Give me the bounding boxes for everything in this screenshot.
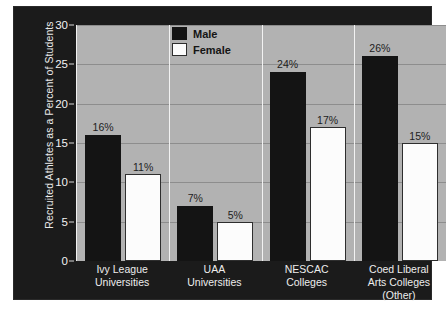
- bar-value-label: 24%: [277, 58, 298, 70]
- y-tick-mark: [69, 143, 74, 144]
- bar-male-1: 16%: [85, 135, 121, 261]
- legend-item-male: Male: [172, 27, 231, 40]
- x-category-line: Arts Colleges: [353, 276, 445, 289]
- x-category-label-4: Coed LiberalArts Colleges(Other): [353, 263, 445, 302]
- bar-value-label: 15%: [409, 130, 430, 142]
- bar-male-2: 7%: [177, 206, 213, 261]
- legend-label: Male: [193, 28, 217, 40]
- group-divider: [169, 25, 170, 261]
- bar-male-3: 24%: [270, 72, 306, 261]
- x-category-label-2: UAAUniversities: [168, 263, 260, 289]
- y-tick-label: 25: [55, 58, 68, 70]
- legend-swatch-female-icon: [172, 43, 187, 56]
- bar-value-label: 17%: [317, 114, 338, 126]
- y-tick-label: 10: [55, 176, 68, 188]
- y-tick-mark: [69, 261, 74, 262]
- bar-value-label: 11%: [133, 161, 153, 173]
- y-tick-label: 0: [62, 255, 68, 267]
- bar-value-label: 16%: [93, 121, 114, 133]
- x-category-line: NESCAC: [261, 263, 353, 276]
- bar-value-label: 26%: [369, 42, 390, 54]
- y-tick-mark: [69, 103, 74, 104]
- x-axis: Ivy LeagueUniversitiesUAAUniversitiesNES…: [76, 263, 446, 305]
- x-category-line: Universities: [76, 276, 168, 289]
- y-tick-mark: [69, 182, 74, 183]
- legend-label: Female: [193, 44, 231, 56]
- chart-legend: MaleFemale: [172, 27, 231, 56]
- x-category-label-3: NESCACColleges: [261, 263, 353, 289]
- bar-female-2: 5%: [217, 222, 253, 261]
- x-category-line: Universities: [168, 276, 260, 289]
- y-tick-label: 5: [62, 216, 68, 228]
- bar-female-1: 11%: [125, 174, 161, 261]
- bar-value-label: 5%: [228, 209, 243, 221]
- figure-caption: [14, 307, 434, 324]
- y-tick-mark: [69, 64, 74, 65]
- plot-area: 16%11%7%5%24%17%26%15%: [76, 25, 446, 261]
- x-category-line: Coed Liberal: [353, 263, 445, 276]
- x-category-label-1: Ivy LeagueUniversities: [76, 263, 168, 289]
- chart-figure-frame: Recruited Athletes as a Percent of Stude…: [13, 6, 432, 300]
- x-category-line: Colleges: [261, 276, 353, 289]
- y-tick-label: 15: [55, 137, 68, 149]
- y-tick-label: 30: [55, 19, 68, 31]
- y-tick-mark: [69, 25, 74, 26]
- x-category-line: (Other): [353, 289, 445, 302]
- group-divider: [354, 25, 355, 261]
- bar-female-3: 17%: [310, 127, 346, 261]
- bar-value-label: 7%: [188, 192, 203, 204]
- y-axis: 051015202530: [38, 19, 74, 261]
- x-category-line: Ivy League: [76, 263, 168, 276]
- legend-swatch-male-icon: [172, 27, 187, 40]
- bar-male-4: 26%: [362, 56, 398, 261]
- legend-item-female: Female: [172, 43, 231, 56]
- x-category-line: UAA: [168, 263, 260, 276]
- group-divider: [262, 25, 263, 261]
- bar-female-4: 15%: [402, 143, 438, 261]
- y-tick-label: 20: [55, 98, 68, 110]
- y-tick-mark: [69, 221, 74, 222]
